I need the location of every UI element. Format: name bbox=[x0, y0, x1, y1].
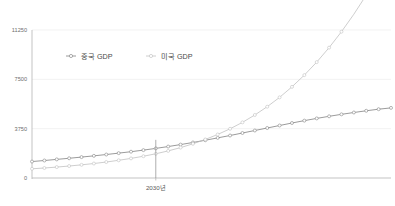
data-point-marker bbox=[241, 121, 244, 124]
data-point-marker bbox=[328, 115, 331, 118]
data-point-marker bbox=[142, 155, 145, 158]
data-point-marker bbox=[390, 106, 393, 109]
data-point-marker bbox=[92, 154, 95, 157]
data-point-marker bbox=[328, 46, 331, 49]
legend-item-label: 중국 GDP bbox=[81, 52, 113, 61]
data-point-marker bbox=[92, 162, 95, 165]
data-point-marker bbox=[266, 105, 269, 108]
data-point-marker bbox=[43, 167, 46, 170]
data-point-marker bbox=[117, 159, 120, 162]
data-point-marker bbox=[31, 160, 34, 163]
data-point-marker bbox=[241, 132, 244, 135]
data-point-marker bbox=[55, 158, 58, 161]
y-tick-label-11250: 11250 bbox=[12, 27, 27, 33]
data-point-marker bbox=[303, 119, 306, 122]
data-point-marker bbox=[365, 109, 368, 112]
data-point-marker bbox=[105, 153, 108, 156]
data-point-marker bbox=[315, 117, 318, 120]
data-point-marker bbox=[253, 113, 256, 116]
data-point-marker bbox=[68, 157, 71, 160]
data-point-marker bbox=[315, 61, 318, 64]
data-point-marker bbox=[290, 85, 293, 88]
data-point-marker bbox=[167, 149, 170, 152]
y-tick-label-7500: 7500 bbox=[15, 76, 27, 82]
gdp-projection-chart: 03750750011250 2030년 중국 GDP미국 GDP bbox=[0, 0, 395, 206]
legend-marker-icon bbox=[69, 54, 72, 57]
data-point-marker bbox=[216, 136, 219, 139]
data-point-marker bbox=[191, 142, 194, 145]
data-point-marker bbox=[130, 150, 133, 153]
data-point-marker bbox=[377, 108, 380, 111]
data-point-marker bbox=[278, 124, 281, 127]
y-tick-label-3750: 3750 bbox=[15, 126, 27, 132]
data-point-marker bbox=[80, 156, 83, 159]
data-point-marker bbox=[31, 167, 34, 170]
legend-item-label: 미국 GDP bbox=[161, 52, 193, 61]
chart-canvas: 03750750011250 2030년 중국 GDP미국 GDP bbox=[0, 0, 395, 206]
data-point-marker bbox=[266, 127, 269, 130]
data-point-marker bbox=[340, 113, 343, 116]
data-point-marker bbox=[204, 138, 207, 141]
data-point-marker bbox=[229, 134, 232, 137]
x-tick-label-2030: 2030년 bbox=[146, 184, 166, 191]
data-point-marker bbox=[117, 152, 120, 155]
data-point-marker bbox=[55, 166, 58, 169]
y-tick-label-0: 0 bbox=[24, 175, 27, 181]
data-point-marker bbox=[253, 129, 256, 132]
legend-marker-icon bbox=[149, 54, 152, 57]
data-point-marker bbox=[352, 111, 355, 114]
data-point-marker bbox=[179, 143, 182, 146]
data-point-marker bbox=[340, 30, 343, 33]
data-point-marker bbox=[278, 96, 281, 99]
data-point-marker bbox=[179, 146, 182, 149]
data-point-marker bbox=[43, 159, 46, 162]
chart-background bbox=[0, 0, 395, 206]
data-point-marker bbox=[216, 133, 219, 136]
data-point-marker bbox=[229, 127, 232, 130]
data-point-marker bbox=[142, 149, 145, 152]
data-point-marker bbox=[130, 157, 133, 160]
data-point-marker bbox=[105, 161, 108, 164]
data-point-marker bbox=[167, 145, 170, 148]
data-point-marker bbox=[80, 163, 83, 166]
data-point-marker bbox=[290, 122, 293, 125]
data-point-marker bbox=[303, 74, 306, 77]
data-point-marker bbox=[68, 165, 71, 168]
